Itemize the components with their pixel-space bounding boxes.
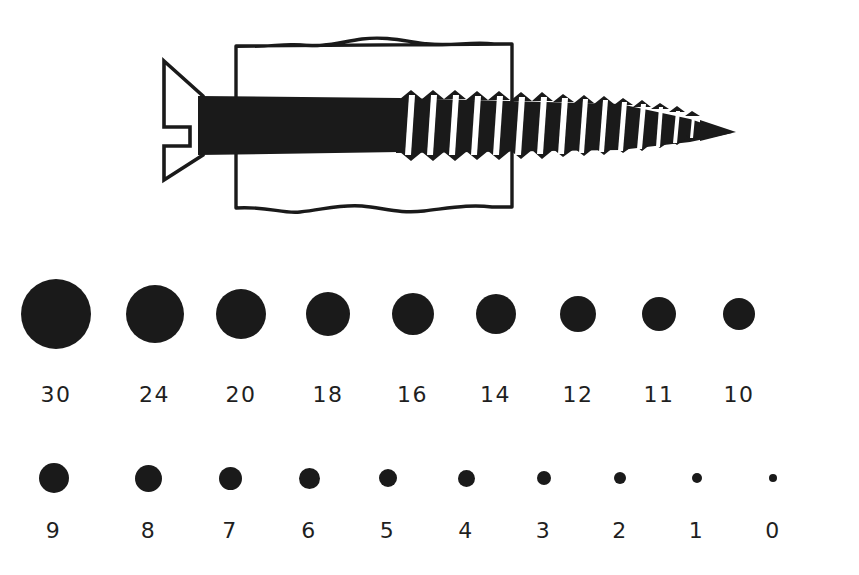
gauge-dot-16 xyxy=(392,293,434,335)
gauge-item: 18 xyxy=(285,276,371,406)
gauge-row-large: 30 24 20 18 16 xyxy=(0,276,859,426)
gauge-dot-0 xyxy=(769,474,777,482)
gauge-label: 8 xyxy=(141,520,157,542)
gauge-dot-7 xyxy=(219,467,242,490)
dot-slot xyxy=(476,276,516,352)
gauge-item: 24 xyxy=(112,276,197,406)
dot-slot xyxy=(21,276,91,352)
countersunk-head xyxy=(164,61,203,180)
gauge-item: 9 xyxy=(0,458,107,542)
gauge-dot-1 xyxy=(692,473,702,483)
gauge-dot-3 xyxy=(537,471,551,485)
gauge-label: 24 xyxy=(139,384,170,406)
gauge-label: 11 xyxy=(644,384,675,406)
dot-slot xyxy=(614,458,626,498)
gauge-item: 2 xyxy=(582,458,658,542)
dot-slot xyxy=(692,458,702,498)
gauge-label: 0 xyxy=(765,520,781,542)
dot-slot xyxy=(458,458,475,498)
dot-slot xyxy=(306,276,350,352)
gauge-dot-11 xyxy=(642,297,676,331)
gauge-item: 5 xyxy=(348,458,427,542)
gauge-dot-5 xyxy=(379,469,397,487)
gauge-dot-24 xyxy=(126,285,184,343)
smooth-shank xyxy=(198,96,400,155)
gauge-dot-14 xyxy=(476,294,516,334)
gauge-item: 8 xyxy=(107,458,190,542)
gauge-item: 1 xyxy=(658,458,735,542)
dot-slot xyxy=(560,276,596,352)
gauge-dot-10 xyxy=(723,298,755,330)
dot-slot xyxy=(769,458,777,498)
gauge-item: 20 xyxy=(197,276,285,406)
gauge-item: 30 xyxy=(0,276,112,406)
gauge-item: 16 xyxy=(371,276,454,406)
gauge-dot-2 xyxy=(614,472,626,484)
dot-slot xyxy=(39,458,69,498)
dot-slot xyxy=(723,276,755,352)
gauge-dot-6 xyxy=(299,468,320,489)
dot-slot xyxy=(392,276,434,352)
dot-slot xyxy=(537,458,551,498)
gauge-item: 7 xyxy=(190,458,270,542)
dot-slot xyxy=(219,458,242,498)
gauge-item: 14 xyxy=(454,276,537,406)
gauge-label: 7 xyxy=(222,520,238,542)
screw-illustration xyxy=(0,0,859,250)
gauge-dot-20 xyxy=(216,289,266,339)
gauge-label: 14 xyxy=(480,384,511,406)
gauge-label: 30 xyxy=(41,384,72,406)
gauge-dot-12 xyxy=(560,296,596,332)
gauge-dot-30 xyxy=(21,279,91,349)
gauge-label: 1 xyxy=(689,520,705,542)
gauge-label: 18 xyxy=(313,384,344,406)
gauge-label: 16 xyxy=(397,384,428,406)
gauge-label: 2 xyxy=(612,520,628,542)
gauge-item: 4 xyxy=(427,458,505,542)
gauge-item: 12 xyxy=(537,276,619,406)
gauge-label: 5 xyxy=(380,520,396,542)
dot-slot xyxy=(379,458,397,498)
gauge-dot-8 xyxy=(135,465,162,492)
gauge-label: 6 xyxy=(301,520,317,542)
dot-slot xyxy=(126,276,184,352)
dot-slot xyxy=(642,276,676,352)
gauge-label: 9 xyxy=(46,520,62,542)
dot-slot xyxy=(299,458,320,498)
screw-gauge-page: 30 24 20 18 16 xyxy=(0,0,859,575)
gauge-row-small: 9 8 7 6 5 xyxy=(0,458,859,563)
dot-slot xyxy=(216,276,266,352)
gauge-label: 4 xyxy=(458,520,474,542)
gauge-dot-4 xyxy=(458,470,475,487)
gauge-dot-9 xyxy=(39,463,69,493)
gauge-item: 11 xyxy=(619,276,699,406)
gauge-label: 20 xyxy=(226,384,257,406)
gauge-item: 0 xyxy=(735,458,811,542)
gauge-item: 3 xyxy=(505,458,582,542)
gauge-item: 10 xyxy=(699,276,779,406)
gauge-dot-18 xyxy=(306,292,350,336)
gauge-label: 12 xyxy=(563,384,594,406)
dot-slot xyxy=(135,458,162,498)
gauge-label: 3 xyxy=(536,520,552,542)
gauge-label: 10 xyxy=(724,384,755,406)
screw-point xyxy=(700,120,736,141)
gauge-item: 6 xyxy=(270,458,348,542)
